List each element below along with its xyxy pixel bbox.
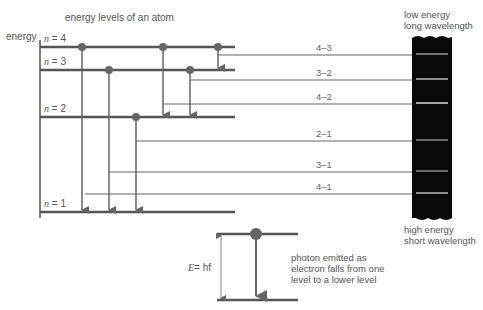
transition-label: 3–2 <box>316 67 332 78</box>
transition-label: 3–1 <box>316 159 332 170</box>
transition-label: 4–2 <box>316 91 332 102</box>
spectrum-top-label-1: low energy <box>404 9 450 20</box>
photon-energy-equation: E= hf <box>188 262 211 273</box>
inset-caption-3: level to a lower level <box>291 274 377 285</box>
energy-level-diagram <box>0 0 483 310</box>
level-3-label: n = 3 <box>44 56 66 67</box>
level-4-label: n = 4 <box>44 33 66 44</box>
level-2-label: n = 2 <box>44 103 66 114</box>
energy-axis-label: energy <box>6 31 37 42</box>
transition-label: 4–3 <box>316 42 332 53</box>
spectrum-top-label-2: long wavelength <box>404 20 473 31</box>
transition-label: 2–1 <box>316 128 332 139</box>
inset-caption-2: electron falls from one <box>291 263 384 274</box>
level-1-label: n = 1 <box>44 198 66 209</box>
spectrum-bottom-label-1: high energy <box>404 224 454 235</box>
inset-caption-1: photon emitted as <box>291 252 367 263</box>
spectrum-bottom-label-2: short wavelength <box>404 235 476 246</box>
transition-label: 4–1 <box>316 181 332 192</box>
diagram-title: energy levels of an atom <box>65 12 174 23</box>
